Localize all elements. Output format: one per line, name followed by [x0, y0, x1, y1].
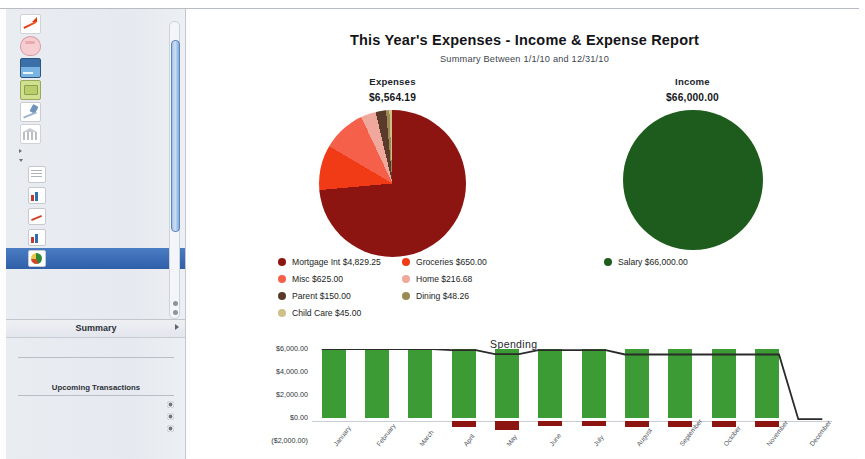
income-pie-block: Income $66,000.00	[585, 76, 800, 250]
legend-swatch-icon	[278, 275, 286, 283]
account-row[interactable]	[6, 13, 185, 35]
sidebar-report-item[interactable]	[6, 227, 185, 248]
legend-item[interactable]: Misc $625.00	[278, 274, 381, 284]
legend-label: Home $216.68	[416, 274, 472, 284]
expenses-pie-block: Expenses $6,564.19	[285, 76, 500, 257]
gear-icon[interactable]	[167, 425, 174, 432]
income-legend-column: Salary $66,000.00	[604, 257, 688, 274]
legend-swatch-icon	[278, 309, 286, 317]
legend-item[interactable]: Salary $66,000.00	[604, 257, 688, 267]
gear-icon[interactable]	[167, 413, 174, 420]
upcoming-transaction-row[interactable]	[18, 425, 174, 432]
disclosure-triangle-icon[interactable]	[19, 149, 22, 153]
application-window: Summary Upcoming Transactions This Year'…	[0, 0, 865, 459]
expenses-caption: Expenses	[285, 76, 500, 87]
account-row[interactable]	[6, 57, 185, 79]
summary-row	[18, 357, 174, 363]
sidebar-scrollbar-thumb[interactable]	[171, 40, 180, 232]
legend-label: Child Care $45.00	[292, 308, 361, 318]
upcoming-transactions-list	[6, 401, 186, 432]
scroll-up-icon[interactable]	[173, 301, 178, 306]
sidebar-report-item[interactable]	[6, 206, 185, 227]
pie-report-icon	[28, 250, 46, 267]
y-axis-tick-label: ($2,000.00)	[271, 436, 308, 445]
income-pie-chart[interactable]	[623, 110, 763, 250]
summary-panel: Summary Upcoming Transactions	[6, 319, 186, 432]
legend-item[interactable]: Dining $48.26	[402, 291, 487, 301]
legend-label: Parent $150.00	[292, 291, 351, 301]
report-canvas: This Year's Expenses - Income & Expense …	[190, 10, 859, 458]
sidebar-group-websites[interactable]	[6, 145, 185, 155]
spending-y-axis: $6,000.00$4,000.00$2,000.00$0.00($2,000.…	[242, 349, 308, 441]
expenses-pie-chart[interactable]	[319, 110, 466, 257]
groups-and-reports	[6, 145, 185, 269]
account-row[interactable]	[6, 101, 185, 123]
piggy-bank-icon	[20, 36, 41, 56]
bank-icon	[20, 124, 41, 144]
legend-label: Misc $625.00	[292, 274, 343, 284]
pie-charts-area: Expenses $6,564.19 Income $66,000.00	[190, 76, 859, 251]
credit-card-icon	[20, 58, 41, 78]
report-subtitle: Summary Between 1/1/10 and 12/31/10	[190, 54, 859, 64]
window-top-edge	[0, 0, 865, 8]
sidebar-report-item[interactable]	[6, 248, 185, 269]
legend-swatch-icon	[402, 275, 410, 283]
sidebar-report-item[interactable]	[6, 164, 185, 185]
y-axis-tick-label: $4,000.00	[276, 367, 308, 376]
upcoming-transactions-title: Upcoming Transactions	[18, 383, 174, 396]
legend-swatch-icon	[278, 292, 286, 300]
upcoming-transaction-row[interactable]	[18, 401, 174, 408]
line-report-icon	[28, 208, 46, 225]
income-caption: Income	[585, 76, 800, 87]
bar-report-icon	[28, 229, 46, 246]
disclosure-triangle-icon[interactable]	[19, 159, 23, 162]
y-axis-tick-label: $2,000.00	[276, 390, 308, 399]
legend-swatch-icon	[604, 258, 612, 266]
cash-icon	[20, 80, 41, 100]
bar-report-icon	[28, 187, 46, 204]
accounts-list	[6, 9, 185, 145]
upcoming-transaction-row[interactable]	[18, 413, 174, 420]
legend-item[interactable]: Parent $150.00	[278, 291, 381, 301]
sidebar-report-item[interactable]	[6, 185, 185, 206]
grid-report-icon	[28, 166, 46, 183]
y-axis-tick-label: $0.00	[290, 413, 308, 422]
legend-item[interactable]: Mortgage Int $4,829.25	[278, 257, 381, 267]
legend-item[interactable]: Groceries $650.00	[402, 257, 487, 267]
summary-title: Summary	[75, 323, 116, 333]
sidebar-scroll-arrows[interactable]	[171, 297, 180, 337]
spending-x-axis-labels: JanuaryFebruaryMarchAprilMayJuneJulyAugu…	[312, 441, 852, 458]
expenses-legend-column-2: Groceries $650.00Home $216.68Dining $48.…	[402, 257, 487, 308]
checkbook-icon	[20, 102, 41, 122]
legend-label: Dining $48.26	[416, 291, 469, 301]
sidebar-group-reports[interactable]	[6, 155, 185, 164]
sidebar: Summary Upcoming Transactions	[6, 9, 186, 459]
expenses-total: $6,564.19	[285, 92, 500, 103]
gear-icon[interactable]	[167, 401, 174, 408]
legend-item[interactable]: Home $216.68	[402, 274, 487, 284]
expenses-legend-column-1: Mortgage Int $4,829.25Misc $625.00Parent…	[278, 257, 381, 325]
income-total: $66,000.00	[585, 92, 800, 103]
window-right-edge	[859, 0, 865, 459]
legend-item[interactable]: Child Care $45.00	[278, 308, 381, 318]
y-axis-tick-label: $6,000.00	[276, 344, 308, 353]
sidebar-scrollbar[interactable]	[169, 21, 180, 319]
legend-label: Salary $66,000.00	[618, 257, 688, 267]
account-row[interactable]	[6, 79, 185, 101]
legend-label: Groceries $650.00	[416, 257, 487, 267]
spending-chart: Spending $6,000.00$4,000.00$2,000.00$0.0…	[190, 337, 859, 458]
legend-swatch-icon	[402, 258, 410, 266]
pie-legends: Mortgage Int $4,829.25Misc $625.00Parent…	[190, 257, 859, 335]
report-title: This Year's Expenses - Income & Expense …	[190, 32, 859, 48]
legend-swatch-icon	[278, 258, 286, 266]
spending-line-path	[322, 349, 823, 419]
scroll-down-icon[interactable]	[173, 310, 178, 315]
summary-rows	[6, 338, 186, 371]
account-row[interactable]	[6, 123, 185, 145]
legend-swatch-icon	[402, 292, 410, 300]
summary-header: Summary	[6, 319, 186, 338]
brokerage-icon	[20, 14, 41, 34]
legend-label: Mortgage Int $4,829.25	[292, 257, 381, 267]
account-row[interactable]	[6, 35, 185, 57]
